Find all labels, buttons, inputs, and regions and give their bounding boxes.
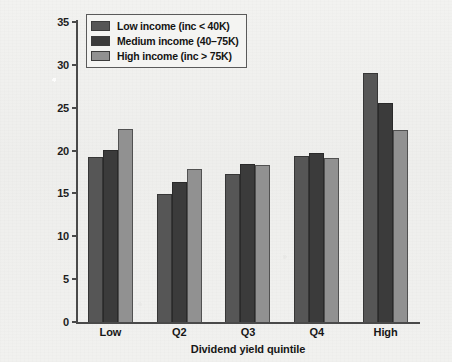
y-tick-35: 35 [57, 16, 76, 28]
x-axis-title: Dividend yield quintile [76, 343, 420, 355]
legend-swatch-icon [91, 36, 110, 46]
y-tick-30: 30 [57, 59, 76, 71]
bar [187, 169, 202, 322]
legend-swatch-icon [91, 21, 110, 31]
legend-label: Low income (inc < 40K) [117, 20, 230, 32]
x-category-label: Q3 [214, 326, 283, 338]
bar [324, 158, 339, 322]
bar-group-q4 [282, 22, 351, 322]
x-axis-line [76, 322, 420, 324]
y-tick-label: 35 [57, 16, 69, 28]
bar [309, 153, 324, 322]
x-category-label: Q2 [145, 326, 214, 338]
bar [363, 73, 378, 322]
bar [88, 157, 103, 322]
x-category-label: Q4 [282, 326, 351, 338]
legend-item: Low income (inc < 40K) [91, 18, 239, 33]
y-tick-label: 0 [63, 316, 69, 328]
bar [294, 156, 309, 322]
y-tick-label: 20 [57, 145, 69, 157]
y-tick-20: 20 [57, 145, 76, 157]
y-tick-label: 25 [57, 102, 69, 114]
y-tick-10: 10 [57, 230, 76, 242]
bar [157, 194, 172, 322]
y-tick-label: 15 [57, 187, 69, 199]
legend-item: High income (inc > 75K) [91, 48, 239, 63]
bar [240, 164, 255, 322]
bar [172, 182, 187, 322]
bar [103, 150, 118, 322]
bar [393, 130, 408, 322]
y-tick-label: 5 [63, 273, 69, 285]
y-tick-0: 0 [63, 316, 76, 328]
chart-legend: Low income (inc < 40K)Medium income (40–… [86, 14, 247, 68]
legend-label: High income (inc > 75K) [117, 50, 232, 62]
y-tick-25: 25 [57, 102, 76, 114]
chart-figure: Portfolio weight (in %) 05101520253035 L… [0, 0, 452, 362]
y-tick-label: 10 [57, 230, 69, 242]
y-tick-15: 15 [57, 187, 76, 199]
bar [118, 129, 133, 322]
legend-item: Medium income (40–75K) [91, 33, 239, 48]
bar [225, 174, 240, 322]
x-axis-category-labels: LowQ2Q3Q4High [76, 326, 420, 338]
legend-swatch-icon [91, 51, 110, 61]
bar [378, 103, 393, 322]
x-category-label: Low [76, 326, 145, 338]
legend-label: Medium income (40–75K) [117, 35, 239, 47]
y-tick-label: 30 [57, 59, 69, 71]
x-category-label: High [351, 326, 420, 338]
y-tick-5: 5 [63, 273, 76, 285]
bar-group-high [351, 22, 420, 322]
bar [255, 165, 270, 322]
